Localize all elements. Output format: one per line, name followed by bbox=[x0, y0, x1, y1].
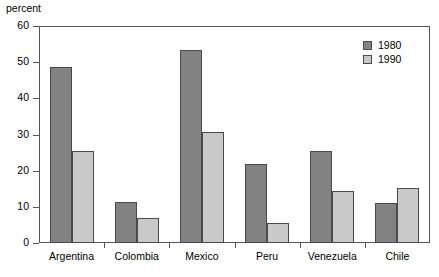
bar-peru-1990 bbox=[267, 223, 289, 243]
y-axis-tick-mark bbox=[33, 243, 39, 244]
y-axis-tick-mark bbox=[33, 135, 39, 136]
y-axis-tick-mark bbox=[33, 98, 39, 99]
y-axis-tick-label: 20 bbox=[17, 164, 29, 176]
x-axis-label-chile: Chile bbox=[365, 250, 430, 262]
bar-venezuela-1980 bbox=[310, 151, 332, 243]
bar-chile-1980 bbox=[375, 203, 397, 243]
chart-legend: 19801990 bbox=[363, 39, 425, 67]
legend-label-1990: 1990 bbox=[378, 53, 401, 66]
y-axis-unit-label: percent bbox=[6, 2, 41, 14]
bar-colombia-1990 bbox=[137, 218, 159, 243]
x-axis-label-peru: Peru bbox=[235, 250, 300, 262]
y-axis-tick-mark bbox=[33, 62, 39, 63]
bar-mexico-1990 bbox=[202, 132, 224, 243]
legend-item-1980: 1980 bbox=[363, 39, 425, 52]
y-axis-tick-label: 30 bbox=[17, 128, 29, 140]
x-axis-label-mexico: Mexico bbox=[169, 250, 234, 262]
x-axis-label-argentina: Argentina bbox=[39, 250, 104, 262]
bar-peru-1980 bbox=[245, 164, 267, 243]
legend-swatch-1980 bbox=[363, 41, 372, 50]
y-axis-tick-label: 40 bbox=[17, 91, 29, 103]
bar-argentina-1980 bbox=[50, 67, 72, 243]
x-axis-tick-mark bbox=[365, 243, 366, 248]
bar-venezuela-1990 bbox=[332, 191, 354, 243]
x-axis-label-venezuela: Venezuela bbox=[300, 250, 365, 262]
bar-mexico-1980 bbox=[180, 50, 202, 243]
x-axis-tick-mark bbox=[300, 243, 301, 248]
x-axis-tick-mark bbox=[235, 243, 236, 248]
bar-chart: percent 0102030405060 ArgentinaColombiaM… bbox=[0, 0, 439, 277]
y-axis-tick-label: 10 bbox=[17, 200, 29, 212]
y-axis-tick-mark bbox=[33, 26, 39, 27]
y-axis-tick-label: 60 bbox=[17, 19, 29, 31]
legend-item-1990: 1990 bbox=[363, 53, 425, 66]
bar-colombia-1980 bbox=[115, 202, 137, 243]
legend-label-1980: 1980 bbox=[378, 39, 401, 52]
bar-argentina-1990 bbox=[72, 151, 94, 243]
y-axis-tick-mark bbox=[33, 171, 39, 172]
y-axis-tick-label: 0 bbox=[23, 236, 29, 248]
bar-chile-1990 bbox=[397, 188, 419, 243]
y-axis-tick-mark bbox=[33, 207, 39, 208]
y-axis-tick-label: 50 bbox=[17, 55, 29, 67]
x-axis-label-colombia: Colombia bbox=[104, 250, 169, 262]
x-axis-tick-mark bbox=[169, 243, 170, 248]
x-axis-tick-mark bbox=[104, 243, 105, 248]
legend-swatch-1990 bbox=[363, 55, 372, 64]
